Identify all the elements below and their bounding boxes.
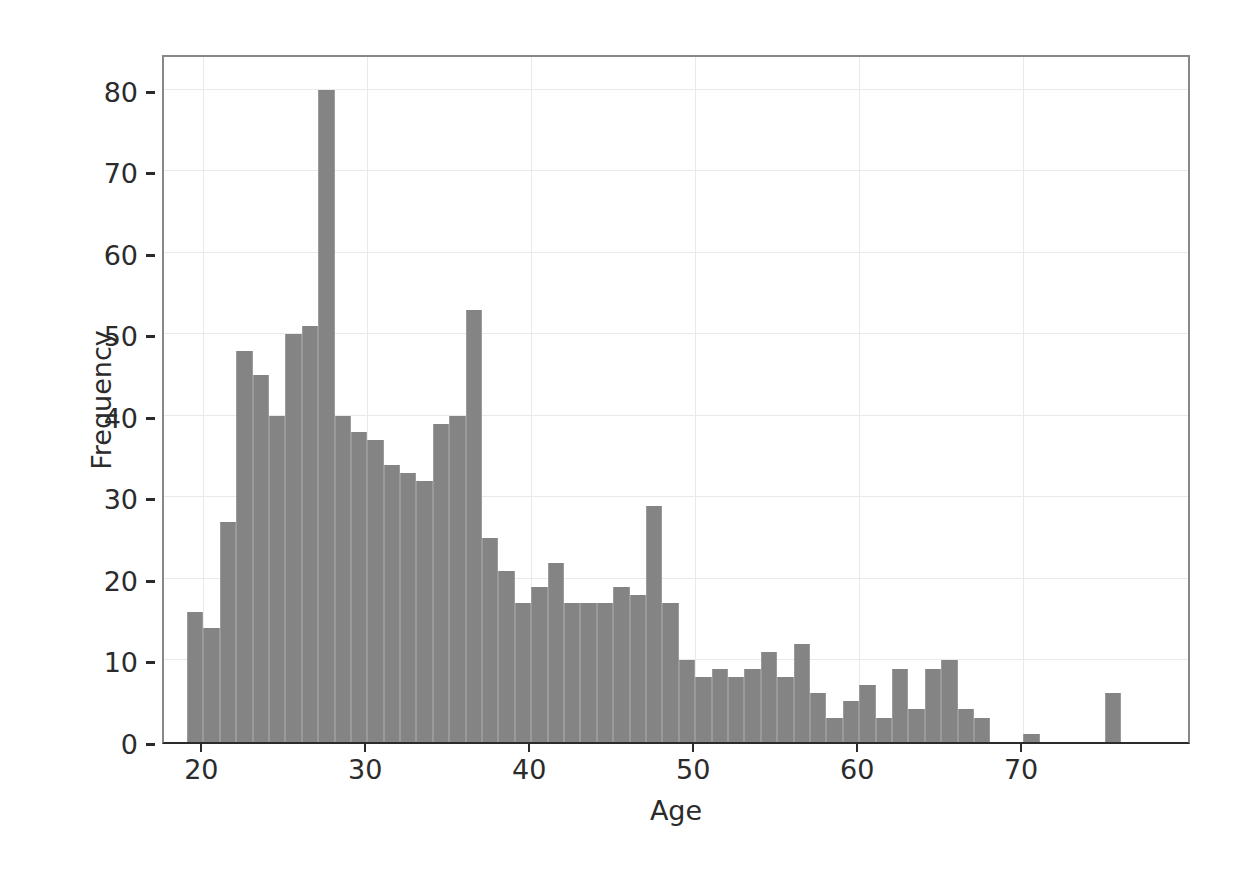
x-tick-label-70: 70 <box>1004 754 1038 785</box>
histogram-bar <box>777 677 793 742</box>
histogram-bar <box>744 669 760 742</box>
histogram-bar <box>302 326 318 742</box>
histogram-bar <box>515 603 531 742</box>
histogram-bar <box>941 660 957 742</box>
histogram-bar <box>400 473 416 742</box>
histogram-bar <box>974 718 990 742</box>
y-tick-mark-80 <box>146 91 155 94</box>
y-tick-label-70: 70 <box>104 158 138 189</box>
histogram-bar <box>384 465 400 742</box>
histogram-bar <box>548 563 564 742</box>
histogram-bar <box>1105 693 1121 742</box>
histogram-bars <box>164 57 1188 742</box>
histogram-bar <box>236 351 252 742</box>
y-axis-tick-labels: 01020304050607080 <box>0 55 152 744</box>
histogram-bar <box>531 587 547 742</box>
histogram-bar <box>187 612 203 742</box>
x-tick-label-20: 20 <box>184 754 218 785</box>
histogram-bar <box>958 709 974 742</box>
y-tick-mark-30 <box>146 498 155 501</box>
histogram-bar <box>794 644 810 742</box>
histogram-bar <box>482 538 498 742</box>
histogram-bar <box>367 440 383 742</box>
histogram-bar <box>843 701 859 742</box>
y-tick-mark-20 <box>146 580 155 583</box>
histogram-bar <box>285 334 301 742</box>
y-tick-label-80: 80 <box>104 76 138 107</box>
histogram-bar <box>613 587 629 742</box>
histogram-bar <box>662 603 678 742</box>
y-tick-label-40: 40 <box>104 402 138 433</box>
histogram-bar <box>416 481 432 742</box>
histogram-bar <box>630 595 646 742</box>
histogram-bar <box>810 693 826 742</box>
x-tick-label-50: 50 <box>676 754 710 785</box>
histogram-figure: Frequency 01020304050607080 203040506070… <box>0 0 1254 879</box>
histogram-bar <box>203 628 219 742</box>
histogram-bar <box>449 416 465 742</box>
histogram-bar <box>597 603 613 742</box>
histogram-bar <box>761 652 777 742</box>
histogram-bar <box>433 424 449 742</box>
histogram-bar <box>220 522 236 742</box>
histogram-bar <box>1023 734 1039 742</box>
histogram-bar <box>646 506 662 742</box>
y-tick-mark-10 <box>146 661 155 664</box>
histogram-bar <box>908 709 924 742</box>
histogram-bar <box>580 603 596 742</box>
histogram-bar <box>351 432 367 742</box>
histogram-bar <box>859 685 875 742</box>
y-tick-label-60: 60 <box>104 239 138 270</box>
histogram-bar <box>679 660 695 742</box>
y-tick-mark-50 <box>146 335 155 338</box>
histogram-bar <box>712 669 728 742</box>
y-tick-label-50: 50 <box>104 321 138 352</box>
histogram-bar <box>925 669 941 742</box>
histogram-bar <box>564 603 580 742</box>
histogram-bar <box>253 375 269 742</box>
y-tick-label-30: 30 <box>104 484 138 515</box>
x-axis-tick-labels: 203040506070 <box>162 748 1190 798</box>
histogram-bar <box>466 310 482 742</box>
x-axis-title: Age <box>162 795 1190 826</box>
x-tick-label-40: 40 <box>512 754 546 785</box>
histogram-bar <box>695 677 711 742</box>
x-tick-label-60: 60 <box>840 754 874 785</box>
histogram-bar <box>876 718 892 742</box>
y-tick-label-20: 20 <box>104 565 138 596</box>
histogram-bar <box>728 677 744 742</box>
histogram-bar <box>318 90 334 742</box>
histogram-bar <box>335 416 351 742</box>
histogram-bar <box>498 571 514 742</box>
y-tick-label-10: 10 <box>104 647 138 678</box>
x-tick-label-30: 30 <box>348 754 382 785</box>
y-tick-mark-60 <box>146 254 155 257</box>
histogram-bar <box>892 669 908 742</box>
plot-area <box>162 55 1190 744</box>
histogram-bar <box>826 718 842 742</box>
y-tick-mark-70 <box>146 172 155 175</box>
y-tick-mark-40 <box>146 417 155 420</box>
y-tick-mark-0 <box>146 743 155 746</box>
histogram-bar <box>269 416 285 742</box>
y-tick-label-0: 0 <box>121 729 138 760</box>
